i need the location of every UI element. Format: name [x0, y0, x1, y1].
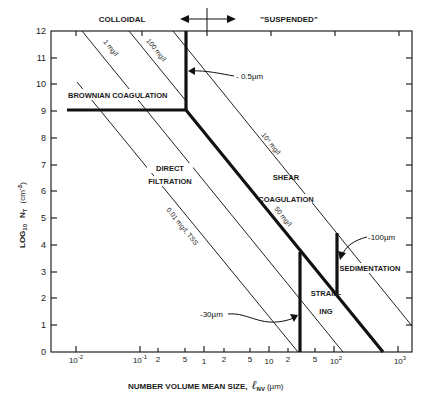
x-tick-5: 5: [248, 355, 253, 364]
x-axis-title: NUMBER VOLUME MEAN SIZE,ℓNV(µm): [128, 378, 284, 392]
plot-frame: [51, 31, 412, 352]
x-axis-ticks: [76, 346, 398, 352]
x-tick-1e-2: 10-2: [69, 354, 84, 365]
x-tick-1e-1: 10-1: [133, 354, 148, 365]
y-tick-1: 1: [41, 320, 46, 330]
y-tick-6: 6: [41, 186, 46, 196]
arrow-100um-icon: [338, 251, 346, 260]
label-backgrounds: [66, 89, 401, 316]
label-colloidal: COLLOIDAL: [99, 15, 146, 24]
line-0.01mg: [77, 82, 298, 352]
size-regime-header: COLLOIDAL "SUSPENDED": [99, 8, 318, 31]
x-tick-0.2: 2: [156, 355, 161, 364]
y-axis-title: LOG10NT(cm-3): [17, 182, 28, 248]
label-brownian: BROWNIAN COAGULATION: [68, 91, 167, 100]
arrow-right-icon: [227, 15, 236, 23]
y-tick-4: 4: [41, 240, 46, 250]
label-50mg: 50 mg/l: [272, 205, 293, 228]
right-axis-ticks: [406, 58, 412, 325]
label-suspended: "SUSPENDED": [260, 15, 318, 24]
y-tick-11: 11: [37, 53, 46, 63]
annotation-100um: -100µm: [368, 233, 396, 242]
label-filtration: FILTRATION: [148, 177, 191, 186]
x-tick-10: 10: [265, 357, 274, 366]
label-coagulation: COAGULATION: [258, 195, 313, 204]
label-sedimentation: SEDIMENTATION: [340, 264, 401, 273]
y-axis-ticks: [51, 58, 57, 325]
label-strain: STRAIN-: [311, 289, 342, 298]
y-tick-5: 5: [41, 213, 46, 223]
x-tick-50: 5: [313, 355, 318, 364]
label-100mg: 100 mg/l: [144, 37, 167, 63]
x-tick-1: 1: [202, 357, 207, 366]
y-tick-labels: 0 1 2 3 4 5 6 7 8 9 10 11 12: [36, 26, 46, 357]
y-tick-7: 7: [41, 160, 46, 170]
x-tick-1e2: 102: [330, 355, 343, 366]
y-tick-9: 9: [41, 106, 46, 116]
y-tick-10: 10: [36, 79, 46, 89]
label-direct: DIRECT: [156, 164, 184, 173]
region-labels: BROWNIAN COAGULATION DIRECT FILTRATION S…: [68, 91, 400, 316]
regime-boundaries: [67, 31, 383, 352]
arrow-left-icon: [180, 15, 189, 23]
label-ing: ING: [319, 307, 333, 316]
arrow-0.5um-icon: [188, 67, 195, 75]
label-1e4mg: 10⁴ mg/l: [259, 131, 282, 157]
x-tick-0.5: 5: [183, 355, 188, 364]
y-tick-3: 3: [41, 267, 46, 277]
y-tick-8: 8: [41, 133, 46, 143]
arrow-30um-icon: [290, 314, 298, 322]
chart: 0 1 2 3 4 5 6 7 8 9 10 11 12 10-2 10-1 2…: [0, 0, 429, 407]
x-tick-20: 2: [286, 355, 291, 364]
y-tick-12: 12: [36, 26, 46, 36]
x-tick-labels: 10-2 10-1 2 5 1 2 5 10 2 5 102 103: [69, 354, 407, 366]
y-tick-2: 2: [41, 293, 46, 303]
annotation-0.5um: - 0.5µm: [236, 72, 264, 81]
label-0.01mg-tss: 0.01 mg/l, TSS: [164, 206, 199, 247]
annotation-30um: -30µm: [200, 310, 223, 319]
x-tick-2: 2: [222, 355, 227, 364]
top-axis-ticks: [76, 31, 399, 36]
y-tick-0: 0: [41, 347, 46, 357]
label-shear: SHEAR: [273, 173, 300, 182]
x-tick-1e3: 103: [394, 355, 407, 366]
line-labels: 1 mg/l 100 mg/l 10⁴ mg/l 50 mg/l 0.01 mg…: [101, 36, 298, 250]
